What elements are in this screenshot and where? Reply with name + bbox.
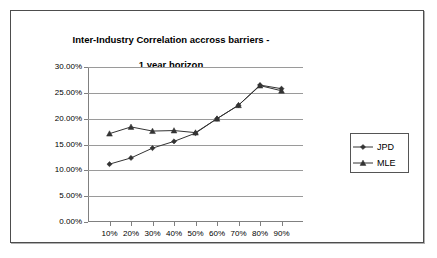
legend-item-mle[interactable]: MLE xyxy=(351,154,408,172)
x-tick-mark xyxy=(110,222,111,226)
legend-label: MLE xyxy=(377,158,396,168)
y-tick-label: 10.00% xyxy=(36,166,82,174)
series-plot xyxy=(88,67,303,222)
x-tick-mark xyxy=(174,222,175,226)
diamond-marker xyxy=(171,139,176,144)
y-tick-label: 5.00% xyxy=(36,192,82,200)
diamond-marker xyxy=(107,162,112,167)
diamond-marker xyxy=(150,146,155,151)
triangle-icon xyxy=(351,156,375,170)
y-tick-label: 20.00% xyxy=(36,115,82,123)
x-tick-mark xyxy=(282,222,283,226)
y-tick-label: 0.00% xyxy=(36,218,82,226)
series-line-mle xyxy=(110,86,282,134)
x-tick-mark xyxy=(260,222,261,226)
y-tick-mark xyxy=(84,222,88,223)
chart-title-line-1: Inter-Industry Correlation accross barri… xyxy=(73,34,270,45)
x-tick-mark xyxy=(196,222,197,226)
x-tick-mark xyxy=(239,222,240,226)
y-tick-label: 30.00% xyxy=(36,63,82,71)
x-tick-mark xyxy=(217,222,218,226)
diamond-icon xyxy=(351,140,375,154)
series-line-jpd xyxy=(110,85,282,164)
diamond-marker xyxy=(128,155,133,160)
y-tick-label: 15.00% xyxy=(36,141,82,149)
x-tick-mark xyxy=(131,222,132,226)
diamond-marker xyxy=(360,144,365,149)
x-tick-mark xyxy=(153,222,154,226)
triangle-marker xyxy=(128,124,134,129)
chart-frame: Inter-Industry Correlation accross barri… xyxy=(10,10,424,243)
chart-legend: JPDMLE xyxy=(350,133,409,173)
legend-label: JPD xyxy=(377,142,394,152)
plot-area: 0.00%5.00%10.00%15.00%20.00%25.00%30.00%… xyxy=(88,67,303,222)
y-tick-label: 25.00% xyxy=(36,89,82,97)
x-tick-label: 90% xyxy=(267,230,297,238)
